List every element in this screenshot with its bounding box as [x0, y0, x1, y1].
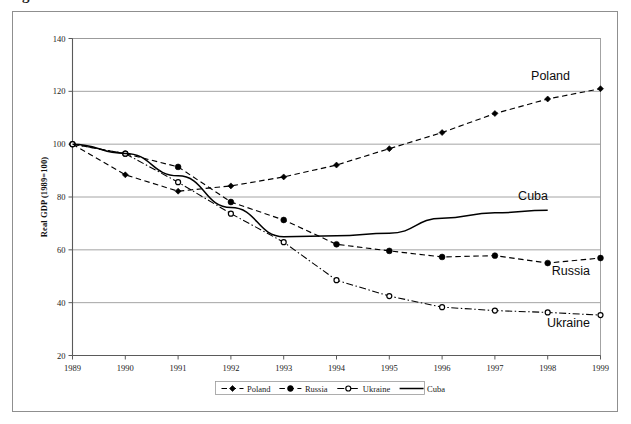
chart-legend[interactable]: PolandRussiaUkraineCuba [216, 382, 446, 395]
legend-label-russia: Russia [305, 384, 328, 394]
series-point-poland-3 [228, 183, 234, 189]
annotation-poland: Poland [531, 69, 570, 83]
y-axis-title: Real GDP (1989=100) [39, 157, 49, 237]
y-tick-label-40: 40 [57, 298, 66, 308]
y-tick-label-80: 80 [57, 192, 66, 202]
legend-label-cuba: Cuba [427, 384, 445, 394]
x-tick-label-1997: 1997 [486, 363, 503, 373]
series-point-ukraine-5 [334, 278, 339, 283]
y-tick-label-140: 140 [53, 34, 66, 44]
series-line-cuba [73, 144, 548, 236]
series-point-russia-2 [175, 164, 181, 170]
x-tick-label-1996: 1996 [434, 363, 451, 373]
series-point-poland-6 [386, 146, 392, 152]
series-point-russia-4 [281, 217, 287, 223]
series-line-ukraine [73, 144, 601, 315]
series-point-poland-7 [439, 130, 445, 136]
series-point-ukraine-2 [176, 180, 181, 185]
x-tick-label-1992: 1992 [222, 363, 239, 373]
x-axis-ticks-group: 1989199019911992199319941995199619971998… [64, 356, 609, 373]
y-tick-label-20: 20 [57, 351, 66, 361]
series-point-russia-6 [386, 248, 392, 254]
series-point-ukraine-3 [228, 211, 233, 216]
series-point-ukraine-6 [387, 294, 392, 299]
annotation-russia: Russia [552, 264, 590, 278]
legend-label-ukraine: Ukraine [363, 384, 391, 394]
y-axis-title-group: Real GDP (1989=100) [39, 157, 49, 237]
x-tick-label-1999: 1999 [592, 363, 609, 373]
y-tick-label-60: 60 [57, 245, 66, 255]
series-russia [70, 141, 604, 266]
series-point-russia-8 [492, 253, 498, 259]
legend-marker-ukraine [346, 386, 351, 391]
series-line-poland [73, 89, 601, 191]
series-point-poland-1 [122, 172, 128, 178]
annotation-cuba: Cuba [518, 189, 548, 203]
series-point-russia-5 [334, 241, 340, 247]
y-tick-label-120: 120 [53, 86, 66, 96]
legend-marker-russia [288, 386, 294, 392]
series-point-ukraine-8 [492, 308, 497, 313]
series-point-poland-8 [492, 111, 498, 117]
annotation-ukraine: Ukraine [547, 316, 590, 330]
series-point-poland-10 [598, 86, 604, 92]
series-point-russia-7 [439, 254, 445, 260]
series-point-ukraine-10 [598, 313, 603, 318]
series-point-russia-3 [228, 199, 234, 205]
series-point-poland-2 [175, 188, 181, 194]
x-tick-label-1989: 1989 [64, 363, 81, 373]
x-tick-label-1990: 1990 [117, 363, 134, 373]
gdp-line-chart: 20406080100120140 1989199019911992199319… [0, 0, 631, 424]
x-tick-label-1994: 1994 [328, 363, 346, 373]
y-axis-ticks-group: 20406080100120140 [53, 34, 73, 361]
series-point-russia-9 [545, 260, 551, 266]
series-point-ukraine-4 [281, 240, 286, 245]
legend-label-poland: Poland [247, 384, 271, 394]
x-tick-label-1991: 1991 [170, 363, 187, 373]
y-tick-label-100: 100 [53, 139, 66, 149]
series-poland [70, 86, 604, 194]
series-point-ukraine-7 [440, 305, 445, 310]
series-point-poland-4 [281, 174, 287, 180]
series-point-russia-10 [598, 255, 604, 261]
figure-root: g 20406080100120140 19891990199119921993… [0, 0, 631, 424]
x-tick-label-1995: 1995 [381, 363, 398, 373]
series-point-poland-5 [334, 162, 340, 168]
series-annotations-group: PolandRussiaUkraineCuba [518, 69, 590, 330]
series-point-ukraine-9 [545, 310, 550, 315]
series-cuba [73, 144, 548, 236]
series-point-poland-9 [545, 96, 551, 102]
x-tick-label-1993: 1993 [275, 363, 292, 373]
x-tick-label-1998: 1998 [539, 363, 556, 373]
